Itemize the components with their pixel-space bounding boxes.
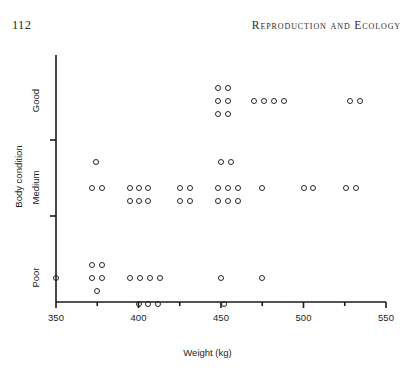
data-point (215, 111, 221, 117)
data-point (136, 198, 142, 204)
data-point (235, 185, 241, 191)
data-point (136, 301, 142, 307)
x-tick-label: 500 (284, 312, 324, 323)
data-point (215, 85, 221, 91)
y-tick-label-poor: Poor (30, 248, 41, 308)
data-point (136, 185, 142, 191)
data-point (347, 98, 353, 104)
data-point (187, 185, 193, 191)
data-point (357, 98, 363, 104)
y-tick-label-good: Good (30, 71, 41, 131)
data-point (225, 98, 231, 104)
data-point (301, 185, 307, 191)
data-point (271, 98, 277, 104)
data-point (251, 98, 257, 104)
x-tick-label: 550 (366, 312, 406, 323)
data-point (281, 98, 287, 104)
data-point (215, 185, 221, 191)
page-header: 112 Reproduction and Ecology (0, 0, 415, 40)
x-tick-label: 450 (201, 312, 241, 323)
scatter-plot-figure: Body condition Weight (kg) GoodMediumPoo… (0, 40, 415, 373)
data-point (225, 85, 231, 91)
x-tick-label: 350 (36, 312, 76, 323)
x-axis-title: Weight (kg) (0, 347, 415, 358)
data-point (187, 198, 193, 204)
y-tick-label-medium: Medium (30, 158, 41, 218)
data-point (261, 98, 267, 104)
y-axis-title: Body condition (13, 132, 24, 222)
data-point (177, 185, 183, 191)
data-point (225, 185, 231, 191)
running-title: Reproduction and Ecology (252, 19, 401, 31)
data-point (225, 198, 231, 204)
data-point (225, 111, 231, 117)
data-point (93, 159, 99, 165)
data-point (53, 275, 59, 281)
data-point (228, 159, 234, 165)
data-point (218, 275, 224, 281)
data-point (157, 275, 163, 281)
data-point (218, 159, 224, 165)
plot-axes (0, 40, 415, 373)
data-point (215, 98, 221, 104)
page-number: 112 (12, 18, 31, 33)
x-tick-label: 400 (119, 312, 159, 323)
data-point (177, 198, 183, 204)
data-point (147, 275, 153, 281)
data-point (215, 198, 221, 204)
data-point (235, 198, 241, 204)
